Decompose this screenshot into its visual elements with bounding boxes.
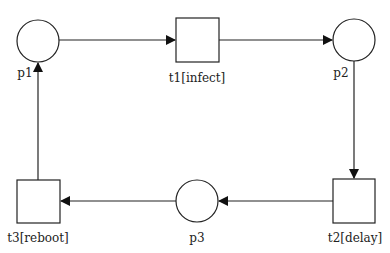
petri-net-diagram bbox=[0, 0, 390, 253]
place-label-p3: p3 bbox=[189, 232, 204, 244]
place-label-p2: p2 bbox=[333, 67, 348, 79]
place-p3 bbox=[176, 180, 218, 222]
transition-t3 bbox=[17, 180, 60, 223]
place-p1 bbox=[17, 20, 59, 62]
transition-label-t2: t2[delay] bbox=[328, 232, 382, 244]
transition-t1 bbox=[176, 18, 219, 62]
transition-t2 bbox=[333, 179, 375, 223]
place-label-p1: p1 bbox=[17, 67, 32, 79]
place-p2 bbox=[333, 19, 375, 61]
transition-label-t1: t1[infect] bbox=[169, 72, 225, 84]
transition-label-t3: t3[reboot] bbox=[7, 232, 69, 244]
